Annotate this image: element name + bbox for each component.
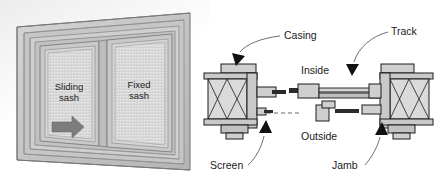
screen-label: Screen [210,159,243,171]
centre-outside-mesh-right [335,109,359,113]
jamb-label: Jamb [332,159,358,171]
outside-label: Outside [301,130,337,142]
left-inside-glass [272,90,286,94]
sliding-sash-label-line2: sash [59,92,79,103]
right-flange-bottom [380,119,433,125]
left-exterior-trim-cap [226,133,243,139]
left-jamb-box [208,79,247,119]
right-track-pocket [369,84,381,98]
centre-outside-screen-head [322,101,335,108]
centre-inside-glass-left [289,88,298,93]
diagram-screenshot: Sliding sash Fixed sash [0,0,437,192]
inside-label: Inside [301,64,329,76]
right-casing [381,64,414,73]
fixed-sash-label-line1: Fixed [127,79,150,90]
meeting-stile [99,40,107,147]
left-casing [221,64,256,73]
right-exterior-trim-cap [393,133,410,139]
left-exterior-trim [221,125,248,133]
right-screen-stub [362,105,381,114]
diagram-canvas: Sliding sash Fixed sash [0,0,437,192]
track-label: Track [391,25,418,37]
right-jamb-box [390,79,429,119]
fixed-sash-label-line2: sash [129,90,149,101]
centre-inside-sash-stile [298,84,319,98]
left-flange-bottom [204,119,257,125]
left-screen-mesh [264,110,273,113]
sliding-window-perspective: Sliding sash Fixed sash [17,13,190,170]
right-exterior-trim [388,125,415,133]
sliding-sash-label-line1: Sliding [55,81,84,92]
casing-label: Casing [284,29,317,41]
